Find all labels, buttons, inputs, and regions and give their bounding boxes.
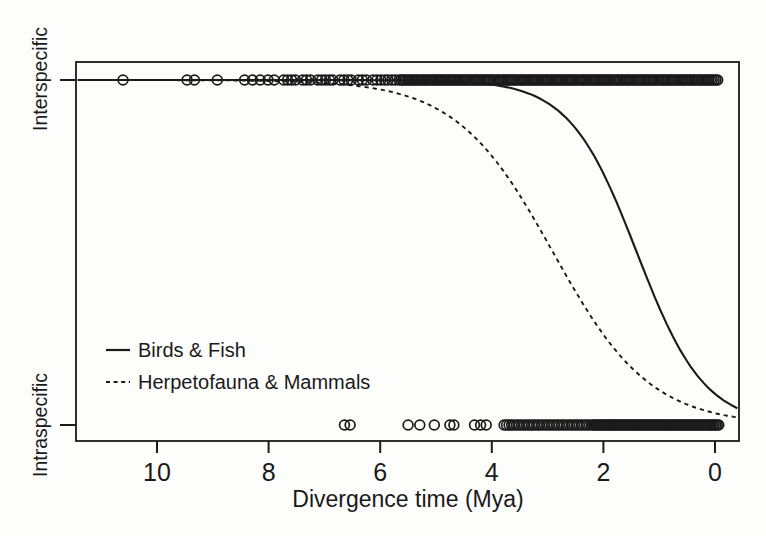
x-tick-label: 6 [373, 458, 387, 486]
x-tick-label: 10 [143, 458, 171, 486]
data-point-intraspecific [415, 420, 425, 430]
data-point-intraspecific [403, 420, 413, 430]
y-axis-label-intraspecific: Intraspecific [29, 373, 51, 477]
x-tick-label: 8 [262, 458, 276, 486]
regression-curve-dashed [78, 80, 738, 417]
x-tick-label: 4 [485, 458, 499, 486]
x-tick-label: 0 [708, 458, 722, 486]
legend-label-birds-fish: Birds & Fish [138, 339, 246, 361]
legend-label-herpetofauna-mammals: Herpetofauna & Mammals [138, 371, 370, 393]
x-axis-ticks-layer: 1086420 [143, 441, 722, 486]
x-tick-label: 2 [596, 458, 610, 486]
logistic-regression-figure: 1086420 Interspecific Intraspecific Dive… [0, 0, 766, 536]
data-point-intraspecific [429, 420, 439, 430]
chart-svg: 1086420 Interspecific Intraspecific Dive… [0, 0, 766, 536]
legend: Birds & Fish Herpetofauna & Mammals [106, 339, 370, 393]
x-axis-title: Divergence time (Mya) [292, 486, 523, 512]
regression-curves-layer [78, 80, 738, 417]
y-axis-label-interspecific: Interspecific [29, 27, 51, 131]
